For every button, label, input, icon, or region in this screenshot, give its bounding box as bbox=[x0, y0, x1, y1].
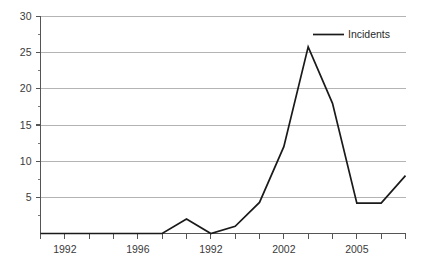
y-tick-label-25: 25 bbox=[20, 46, 32, 58]
y-tick-label-10: 10 bbox=[20, 155, 32, 167]
chart-canvas: 51015202530 19921996199220022005 Inciden… bbox=[0, 0, 421, 266]
y-tick-label-15: 15 bbox=[20, 119, 32, 131]
x-tick-label-10: 2002 bbox=[272, 243, 296, 255]
y-tick-label-20: 20 bbox=[20, 82, 32, 94]
x-tick-label-13: 2005 bbox=[345, 243, 369, 255]
x-tick-label-4: 1996 bbox=[126, 243, 150, 255]
line-chart-figure: 51015202530 19921996199220022005 Inciden… bbox=[0, 0, 421, 266]
y-tick-label-5: 5 bbox=[26, 191, 32, 203]
legend-label-incidents: Incidents bbox=[348, 28, 390, 40]
y-tick-label-30: 30 bbox=[20, 10, 32, 22]
x-tick-label-7: 1992 bbox=[199, 243, 223, 255]
x-tick-label-1: 1992 bbox=[53, 243, 77, 255]
